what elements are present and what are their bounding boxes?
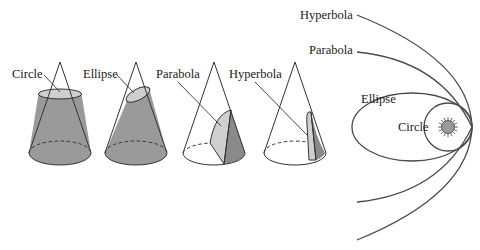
orbit-label-ellipse: Ellipse xyxy=(361,92,396,106)
orbit-diagram: Hyperbola Parabola Ellipse Circle xyxy=(300,8,472,240)
conic-sections-figure: Circle Ellipse Parabola Hyperbola xyxy=(0,0,480,250)
circle-section xyxy=(39,89,82,99)
sun-icon xyxy=(438,117,458,137)
cone-ellipse: Ellipse xyxy=(83,62,167,165)
cone-label-hyperbola: Hyperbola xyxy=(229,67,282,81)
orbit-label-hyperbola: Hyperbola xyxy=(300,8,353,22)
cone-circle: Circle xyxy=(12,62,91,165)
orbit-label-parabola: Parabola xyxy=(309,43,353,57)
cone-label-circle: Circle xyxy=(12,67,43,81)
cone-label-parabola: Parabola xyxy=(156,67,200,81)
orbit-label-circle: Circle xyxy=(398,120,429,134)
cone-label-ellipse: Ellipse xyxy=(83,67,118,81)
